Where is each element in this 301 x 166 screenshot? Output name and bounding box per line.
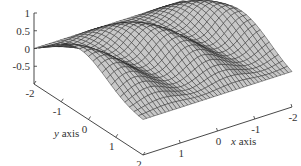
z-axis: 10.50-0.5 bbox=[13, 7, 37, 84]
y-axis-title-rest: axis bbox=[59, 127, 79, 139]
x-tick-mark bbox=[291, 104, 292, 107]
z-axis-ticks: 10.50-0.5 bbox=[13, 7, 37, 72]
surface-plot: 10.50-0.5 -2-1012 y axis -2-101 x axis bbox=[0, 0, 301, 166]
y-tick-mark bbox=[89, 117, 91, 120]
z-tick-label: -0.5 bbox=[13, 60, 31, 72]
x-axis-title-rest: axis bbox=[236, 135, 256, 147]
x-tick-mark bbox=[217, 128, 218, 131]
x-tick-label: 0 bbox=[216, 135, 222, 147]
x-tick-label: -1 bbox=[251, 123, 260, 135]
x-tick-mark bbox=[254, 116, 255, 119]
y-tick-label: 1 bbox=[109, 140, 115, 152]
x-tick-label: 1 bbox=[179, 147, 185, 159]
z-tick-label: 0 bbox=[25, 43, 31, 55]
y-tick-mark bbox=[61, 99, 63, 102]
y-tick-label: -1 bbox=[53, 105, 62, 117]
y-tick-mark bbox=[116, 134, 118, 137]
y-axis-title: y axis bbox=[53, 127, 79, 139]
z-tick-label: 1 bbox=[25, 7, 31, 19]
y-tick-label: 0 bbox=[82, 123, 88, 135]
x-tick-label: -2 bbox=[288, 111, 297, 123]
x-axis-title: x axis bbox=[230, 135, 256, 147]
z-tick-label: 0.5 bbox=[16, 25, 30, 37]
x-axis-ticks: -2-101 bbox=[179, 104, 298, 159]
x-tick-mark bbox=[179, 140, 180, 143]
y-tick-label: 2 bbox=[136, 158, 142, 166]
y-tick-label: -2 bbox=[25, 87, 34, 99]
surface-mesh bbox=[34, 0, 292, 119]
